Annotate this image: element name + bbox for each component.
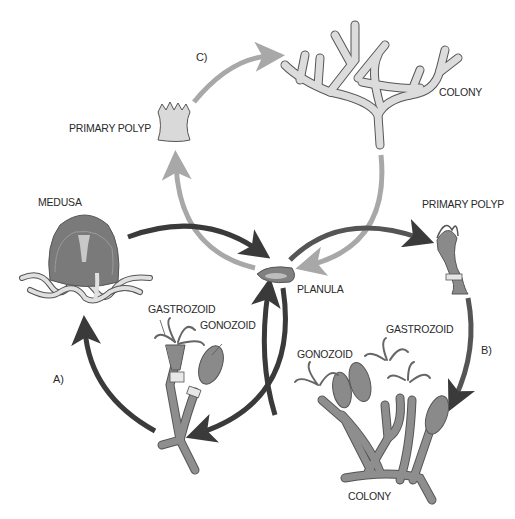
colony-left-illustration (155, 318, 228, 470)
arrow-colony-to-planula-up (264, 292, 275, 415)
gastrozoid-leader-line (160, 320, 165, 335)
colony-top-illustration (285, 25, 458, 145)
label-cycle-c: C) (196, 51, 207, 63)
arrow-colony-to-planula (310, 155, 382, 265)
label-primary-polyp-right: PRIMARY POLYP (422, 198, 504, 210)
label-cycle-a: A) (53, 373, 64, 385)
medusa-illustration (22, 215, 150, 300)
label-cycle-b: B) (481, 344, 492, 356)
label-gastrozoid-left: GASTROZOID (148, 303, 215, 315)
label-gonozoid-left: GONOZOID (200, 319, 256, 331)
planula-illustration (257, 267, 295, 283)
colony-right-illustration (295, 338, 453, 500)
primary-polyp-right-illustration (437, 226, 468, 295)
label-gonozoid-right: GONOZOID (297, 348, 353, 360)
label-colony-bottom: COLONY (348, 490, 391, 502)
arrow-planula-to-polyp (176, 165, 255, 268)
life-cycle-diagram (0, 0, 515, 519)
arrow-primary-polyp-to-colony (455, 298, 471, 398)
label-colony-top: COLONY (439, 86, 482, 98)
cycle-c-arrows (176, 56, 382, 268)
label-gastrozoid-right: GASTROZOID (386, 323, 453, 335)
label-planula: PLANULA (297, 283, 343, 295)
label-primary-polyp-top: PRIMARY POLYP (69, 122, 151, 134)
label-medusa: MEDUSA (38, 196, 82, 208)
arrow-colony-to-medusa (85, 330, 155, 431)
primary-polyp-top-illustration (158, 102, 190, 142)
